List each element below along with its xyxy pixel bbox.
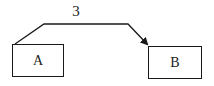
edge-weight-label: 3 xyxy=(72,3,80,20)
node-a-label: A xyxy=(33,53,43,69)
node-b: B xyxy=(148,46,202,79)
edge-a-to-b xyxy=(15,24,147,44)
node-b-label: B xyxy=(170,55,179,71)
node-a: A xyxy=(12,44,64,77)
